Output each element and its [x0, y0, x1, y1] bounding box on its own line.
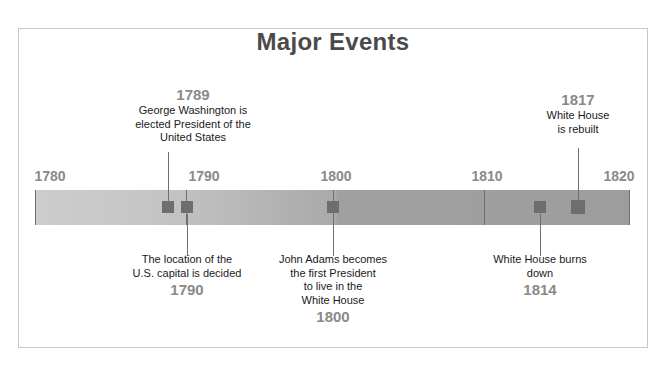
event-leader-1817 [578, 148, 579, 202]
event-text-line: U.S. capital is decided [112, 267, 262, 281]
event-callout-1790: The location of the U.S. capital is deci… [112, 253, 262, 299]
event-marker-1817[interactable] [571, 200, 585, 214]
decade-label-1810: 1810 [471, 168, 502, 184]
event-callout-1789: 1789 George Washington is elected Presid… [98, 85, 288, 145]
event-text-line: John Adams becomes [258, 253, 408, 267]
event-marker-1790[interactable] [181, 201, 193, 213]
event-text-1814: White House burns down [466, 253, 614, 280]
event-callout-1814: White House burns down 1814 [466, 253, 614, 299]
event-year-1790: 1790 [112, 280, 262, 299]
event-marker-1800[interactable] [327, 201, 339, 213]
event-text-line: The location of the [112, 253, 262, 267]
decade-tick-1780 [35, 190, 36, 225]
event-text-line: to live in the [258, 280, 408, 294]
decade-label-1780: 1780 [34, 168, 65, 184]
event-marker-1789[interactable] [162, 201, 174, 213]
decade-label-1820: 1820 [603, 168, 634, 184]
event-leader-1789 [168, 152, 169, 202]
page-title: Major Events [0, 28, 666, 56]
timeline-diagram: Major Events 1780 1790 1800 1810 1820 17… [0, 0, 666, 373]
decade-label-1790: 1790 [188, 168, 219, 184]
event-year-1800: 1800 [258, 307, 408, 326]
event-text-1790: The location of the U.S. capital is deci… [112, 253, 262, 280]
event-year-1817: 1817 [503, 90, 653, 109]
event-text-line: elected President of the [98, 118, 288, 132]
event-text-line: White House [258, 294, 408, 308]
event-text-line: White House burns [466, 253, 614, 267]
event-callout-1800: John Adams becomes the first President t… [258, 253, 408, 326]
event-text-line: White House [503, 109, 653, 123]
event-text-line: George Washington is [98, 104, 288, 118]
decade-tick-1810 [484, 190, 485, 225]
event-callout-1817: 1817 White House is rebuilt [503, 90, 653, 136]
event-text-1817: White House is rebuilt [503, 109, 653, 136]
event-leader-1800 [333, 214, 334, 256]
decade-tick-1820 [629, 190, 630, 225]
event-year-1814: 1814 [466, 280, 614, 299]
event-text-1789: George Washington is elected President o… [98, 104, 288, 145]
event-year-1789: 1789 [98, 85, 288, 104]
event-text-1800: John Adams becomes the first President t… [258, 253, 408, 307]
decade-label-1800: 1800 [320, 168, 351, 184]
event-text-line: is rebuilt [503, 123, 653, 137]
event-text-line: the first President [258, 267, 408, 281]
event-leader-1790 [187, 214, 188, 256]
event-text-line: United States [98, 131, 288, 145]
event-text-line: down [466, 267, 614, 281]
event-leader-1814 [540, 214, 541, 256]
event-marker-1814[interactable] [534, 201, 546, 213]
